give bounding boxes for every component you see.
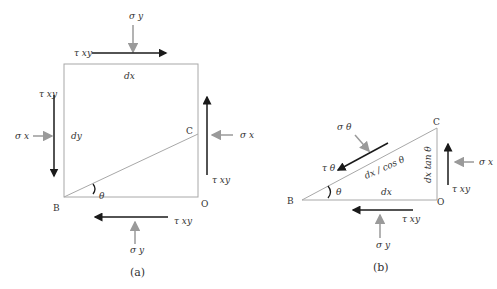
cut-plane-bc	[64, 134, 198, 197]
dx-label: dx	[124, 71, 135, 81]
figure-b: C σ θ τ θ dx / cos θ dx tan θ τ xy σ x B…	[287, 117, 493, 274]
theta-arc	[93, 184, 95, 194]
tau-xy-bottom-label-b: τ xy	[402, 214, 421, 224]
sigma-x-left-label: σ x	[15, 131, 29, 141]
sigma-y-label-b: σ y	[376, 240, 391, 250]
figure-a: σ y τ xy dx τ xy σ x dy C τ xy σ x B θ O…	[15, 11, 254, 279]
sigma-y-bottom-label: σ y	[130, 245, 145, 255]
caption-b: (b)	[373, 261, 389, 274]
tau-xy-right-label: τ xy	[212, 175, 231, 185]
sigma-y-top-label: σ y	[129, 11, 144, 21]
dx-label-b: dx	[381, 187, 392, 197]
theta-label-b: θ	[336, 187, 342, 197]
point-c-label: C	[186, 126, 193, 136]
sigma-x-right-label: σ x	[240, 130, 254, 140]
tau-xy-top-label: τ xy	[74, 48, 93, 58]
tau-xy-left-label: τ xy	[39, 89, 58, 99]
hypotenuse-label: dx / cos θ	[363, 154, 407, 181]
dy-label: dy	[71, 131, 83, 141]
element-square	[64, 64, 198, 197]
point-b-label-b: B	[287, 196, 294, 206]
theta-arc-b	[328, 186, 331, 198]
caption-a: (a)	[130, 266, 145, 279]
point-c-label-b: C	[433, 117, 440, 127]
theta-label: θ	[99, 191, 105, 201]
sigma-x-label-b: σ x	[479, 157, 493, 167]
tau-xy-right-label-b: τ xy	[452, 184, 471, 194]
tau-theta-label: τ θ	[322, 163, 336, 173]
point-o-label-b: O	[437, 197, 444, 207]
point-b-label: B	[53, 203, 60, 213]
tau-xy-bottom-label: τ xy	[174, 216, 193, 226]
sigma-theta-label: σ θ	[337, 122, 352, 132]
vertical-side-label: dx tan θ	[423, 146, 433, 183]
point-o-label: O	[201, 199, 208, 209]
sigma-theta-arrow	[355, 135, 369, 151]
